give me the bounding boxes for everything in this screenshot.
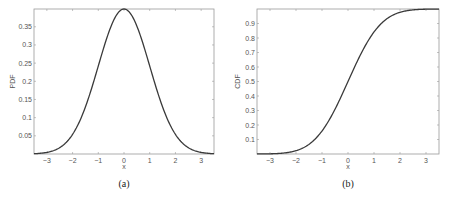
x-tick-label: 3 <box>424 157 428 164</box>
x-tick-label: 1 <box>372 157 376 164</box>
cdf-panel: −3−2−101230.10.20.30.40.50.60.70.80.9xCD… <box>234 9 439 190</box>
y-tick-label: 0.05 <box>18 132 32 139</box>
y-tick-label: 0.25 <box>18 60 32 67</box>
y-tick-label: 0.4 <box>245 93 255 100</box>
y-axis-label: PDF <box>9 75 16 89</box>
y-axis-label: CDF <box>234 74 241 88</box>
x-axis-label: x <box>346 163 350 170</box>
y-tick-label: 0.35 <box>18 23 32 30</box>
x-tick-label: −1 <box>318 157 326 164</box>
x-tick-label: 1 <box>148 157 152 164</box>
plot-frame <box>34 9 214 154</box>
x-tick-label: −3 <box>43 157 51 164</box>
x-tick-label: −2 <box>292 157 300 164</box>
y-tick-label: 0.7 <box>245 49 255 56</box>
x-tick-label: −1 <box>94 157 102 164</box>
y-tick-label: 0.1 <box>245 136 255 143</box>
y-tick-label: 0.3 <box>245 107 255 114</box>
x-tick-label: 2 <box>173 157 177 164</box>
figure: −3−2−101230.050.10.150.20.250.30.35xPDF(… <box>0 0 455 198</box>
pdf-panel: −3−2−101230.050.10.150.20.250.30.35xPDF(… <box>9 9 214 190</box>
subfigure-caption: (a) <box>118 178 129 190</box>
subfigure-caption: (b) <box>342 178 354 190</box>
y-tick-label: 0.3 <box>22 41 32 48</box>
y-tick-label: 0.2 <box>245 122 255 129</box>
y-tick-label: 0.8 <box>245 35 255 42</box>
y-tick-label: 0.15 <box>18 96 32 103</box>
y-tick-label: 0.6 <box>245 64 255 71</box>
x-tick-label: −3 <box>266 157 274 164</box>
x-tick-label: 3 <box>199 157 203 164</box>
x-tick-label: −2 <box>69 157 77 164</box>
pdf-curve <box>34 9 214 154</box>
y-tick-label: 0.9 <box>245 20 255 27</box>
x-axis-label: x <box>122 163 126 170</box>
y-tick-label: 0.1 <box>22 114 32 121</box>
cdf-curve <box>257 9 439 154</box>
x-tick-label: 2 <box>398 157 402 164</box>
y-tick-label: 0.5 <box>245 78 255 85</box>
y-tick-label: 0.2 <box>22 78 32 85</box>
